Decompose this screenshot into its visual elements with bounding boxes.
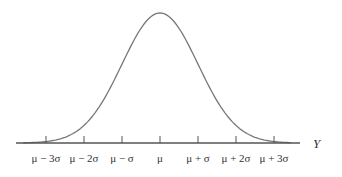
x-axis-label: Y: [313, 136, 322, 151]
x-tick-label: μ − 3σ: [31, 152, 60, 164]
normal-distribution-chart: μ − 3σμ − 2σμ − σμμ + σμ + 2σμ + 3σ Y: [0, 0, 342, 177]
bell-curve: [23, 13, 291, 143]
x-tick-label: μ + 3σ: [259, 152, 288, 164]
x-tick-label: μ − 2σ: [69, 152, 98, 164]
x-tick-label: μ + 2σ: [221, 152, 250, 164]
x-tick-label: μ + σ: [186, 152, 210, 164]
x-axis-ticks: [46, 136, 274, 143]
x-tick-label: μ: [157, 152, 163, 164]
x-axis-tick-labels: μ − 3σμ − 2σμ − σμμ + σμ + 2σμ + 3σ: [31, 152, 288, 164]
x-tick-label: μ − σ: [110, 152, 134, 164]
